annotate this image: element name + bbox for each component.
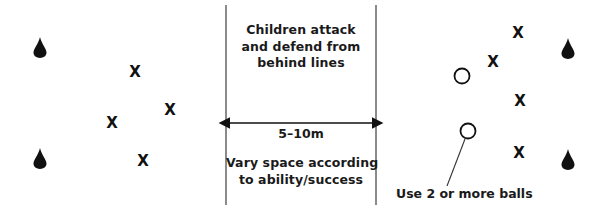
pitch-diagram: X X X X X X X X Children attack and defe… bbox=[0, 0, 605, 214]
balls-caption: Use 2 or more balls bbox=[396, 187, 533, 201]
player-x-marker: X bbox=[514, 94, 526, 109]
ball-marker bbox=[461, 124, 476, 139]
player-x-marker: X bbox=[512, 26, 524, 41]
cone-marker bbox=[34, 148, 47, 169]
cone-marker bbox=[562, 149, 575, 170]
ball-leader-line bbox=[447, 139, 465, 186]
cone-marker bbox=[34, 37, 47, 58]
bottom-center-annotation: Vary space according to ability/success bbox=[226, 155, 376, 188]
player-x-marker: X bbox=[129, 65, 141, 80]
cone-marker bbox=[562, 38, 575, 59]
top-center-annotation: Children attack and defend from behind l… bbox=[228, 22, 374, 72]
player-x-marker: X bbox=[106, 116, 118, 131]
player-x-marker: X bbox=[164, 103, 176, 118]
player-x-marker: X bbox=[137, 154, 149, 169]
dimension-label: 5–10m bbox=[228, 127, 374, 141]
ball-marker bbox=[455, 69, 470, 84]
player-x-marker: X bbox=[513, 146, 525, 161]
player-x-marker: X bbox=[487, 55, 499, 70]
